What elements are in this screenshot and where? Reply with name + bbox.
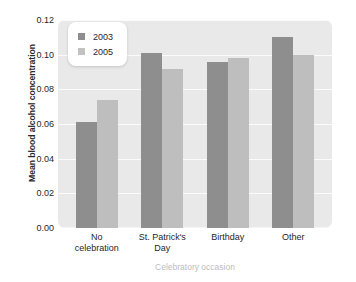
legend-item-2003: 2003 bbox=[78, 29, 113, 44]
y-axis-tick-label: 0.08 bbox=[24, 84, 54, 94]
bar-2003-2 bbox=[207, 62, 228, 228]
y-axis-tick-label: 0.04 bbox=[24, 154, 54, 164]
x-axis-tick-label-line: Other bbox=[262, 232, 324, 243]
y-axis-tick-label: 0.10 bbox=[24, 50, 54, 60]
x-axis-tick-label: Other bbox=[262, 232, 324, 254]
bar-group bbox=[272, 20, 314, 228]
bar-2003-1 bbox=[141, 53, 162, 228]
legend-item-label: 2003 bbox=[93, 32, 113, 42]
bar-chart: Mean blood alcohol concentration 0.120.1… bbox=[0, 0, 356, 282]
legend: 20032005 bbox=[68, 22, 127, 66]
x-axis-tick-label: Nocelebration bbox=[66, 232, 128, 254]
x-axis-tick-label: Birthday bbox=[197, 232, 259, 254]
y-axis-tick-label: 0.06 bbox=[24, 119, 54, 129]
legend-swatch-icon bbox=[78, 33, 85, 40]
bar-group bbox=[207, 20, 249, 228]
bar-2005-3 bbox=[293, 55, 314, 228]
x-axis-tick-labels: NocelebrationSt. Patrick'sDayBirthdayOth… bbox=[58, 232, 332, 254]
x-axis-tick-label-line: Birthday bbox=[197, 232, 259, 243]
bar-2003-0 bbox=[76, 122, 97, 228]
y-axis-tick-labels: 0.120.100.080.060.040.020.00 bbox=[24, 20, 54, 228]
x-axis-tick-label-line: Day bbox=[131, 243, 193, 254]
y-axis-tick-label: 0.02 bbox=[24, 188, 54, 198]
x-axis-title: Celebratory occasion bbox=[58, 262, 332, 272]
x-axis-tick-label-line: St. Patrick's bbox=[131, 232, 193, 243]
x-axis-tick-label-line: No bbox=[66, 232, 128, 243]
bar-group bbox=[141, 20, 183, 228]
bar-2005-1 bbox=[162, 69, 183, 228]
legend-item-2005: 2005 bbox=[78, 44, 113, 59]
bar-2005-2 bbox=[228, 58, 249, 228]
x-axis-tick-label-line: celebration bbox=[66, 243, 128, 254]
y-axis-tick-label: 0.00 bbox=[24, 223, 54, 233]
bar-2005-0 bbox=[97, 100, 118, 228]
bar-2003-3 bbox=[272, 37, 293, 228]
legend-swatch-icon bbox=[78, 48, 85, 55]
x-axis-tick-label: St. Patrick'sDay bbox=[131, 232, 193, 254]
y-axis-tick-label: 0.12 bbox=[24, 15, 54, 25]
legend-item-label: 2005 bbox=[93, 47, 113, 57]
